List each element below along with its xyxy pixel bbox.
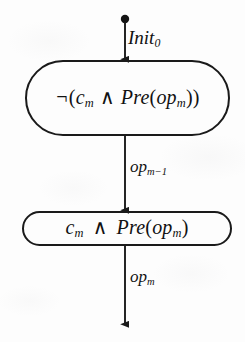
formula-guard: cm∧Pre(opm) — [65, 217, 188, 240]
pre-function-name: Pre — [121, 86, 150, 108]
edge-label-init-subscript: 0 — [154, 37, 160, 50]
pre-close-paren: ) — [186, 86, 193, 108]
state-node-guard: cm∧Pre(opm) — [22, 211, 232, 246]
variable-c: c — [65, 216, 74, 238]
edge-label-op-base: op — [130, 267, 147, 286]
conjunction-symbol: ∧ — [94, 86, 121, 108]
close-paren: ) — [193, 86, 200, 108]
edge-label-init: Init0 — [128, 28, 160, 50]
pre-close-paren: ) — [182, 216, 189, 238]
diagram-connectors — [0, 0, 245, 342]
edge-label-op-m: opm — [130, 268, 155, 287]
operation-op-subscript: m — [173, 227, 182, 241]
state-node-not-guard: ¬(cm∧Pre(opm)) — [25, 60, 230, 136]
pre-function-name: Pre — [117, 216, 146, 238]
conjunction-symbol: ∧ — [84, 216, 117, 238]
edge-label-op-m-minus-1: opm−1 — [130, 158, 167, 177]
initial-state-dot — [121, 15, 129, 23]
operation-op: op — [156, 86, 176, 108]
diagram-canvas: ¬(cm∧Pre(opm)) cm∧Pre(opm) Init0 opm−1 o… — [0, 0, 245, 342]
formula-not-guard: ¬(cm∧Pre(opm)) — [55, 87, 199, 110]
open-paren: ( — [69, 86, 76, 108]
edge-label-init-base: Init — [128, 27, 154, 48]
variable-c-subscript: m — [85, 96, 94, 110]
operation-op: op — [152, 216, 172, 238]
edge-label-op-subscript: m−1 — [147, 166, 167, 177]
variable-c: c — [76, 86, 85, 108]
variable-c-subscript: m — [75, 227, 84, 241]
edge-label-op-base: op — [130, 157, 147, 176]
operation-op-subscript: m — [177, 96, 186, 110]
edge-label-op-subscript: m — [147, 276, 155, 287]
negation-symbol: ¬ — [55, 86, 68, 108]
